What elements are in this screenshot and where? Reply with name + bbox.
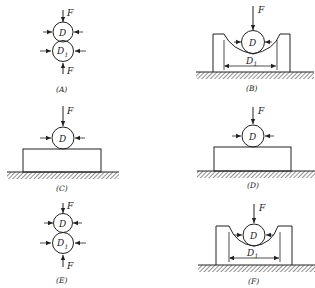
bottom-force-label: F	[66, 261, 74, 271]
ball-label: D	[58, 219, 66, 229]
dimension-label: D	[246, 248, 254, 258]
flat-block	[23, 149, 101, 172]
panel-b: D F D 1 (B)	[196, 5, 314, 93]
ball-label: D	[248, 132, 256, 142]
ball-label: D	[58, 134, 66, 144]
force-label: F	[66, 106, 74, 116]
force-label: F	[66, 201, 74, 211]
panel-caption: (B)	[246, 84, 257, 93]
ground-hatch	[7, 172, 119, 179]
panel-a: F D D 1 F (A)	[40, 8, 86, 94]
bottom-force-label: F	[66, 66, 74, 76]
panel-e: F D D 1 F (E)	[40, 201, 86, 285]
svg-text:1: 1	[255, 252, 259, 259]
svg-text:1: 1	[65, 51, 69, 58]
panel-caption: (E)	[56, 276, 67, 285]
ground-hatch	[196, 72, 314, 79]
ball-label: D	[248, 38, 256, 48]
dimension-label: D	[245, 56, 253, 66]
force-label: F	[257, 5, 265, 15]
panel-caption: (F)	[248, 277, 259, 286]
flat-block	[214, 147, 291, 171]
panel-caption: (D)	[247, 181, 259, 190]
svg-text:1: 1	[254, 60, 258, 67]
panel-caption: (A)	[56, 85, 67, 94]
panel-caption: (C)	[56, 184, 68, 193]
ball-contact-diagram: F D D 1 F (A) D F D 1 (B) D	[0, 0, 315, 288]
large-ball-label: D	[56, 238, 64, 248]
large-ball-label: D	[56, 46, 64, 56]
ball-label: D	[249, 231, 257, 241]
panel-c: D F (C)	[7, 106, 119, 193]
force-label: F	[258, 203, 266, 213]
ball-label: D	[58, 28, 66, 38]
force-label: F	[257, 106, 265, 116]
panel-d: D F (D)	[197, 106, 315, 190]
svg-text:1: 1	[65, 243, 69, 250]
force-label: F	[66, 8, 74, 18]
ground-hatch	[197, 171, 315, 178]
ground-hatch	[198, 265, 315, 272]
panel-f: D F D 1 (F)	[198, 203, 315, 286]
